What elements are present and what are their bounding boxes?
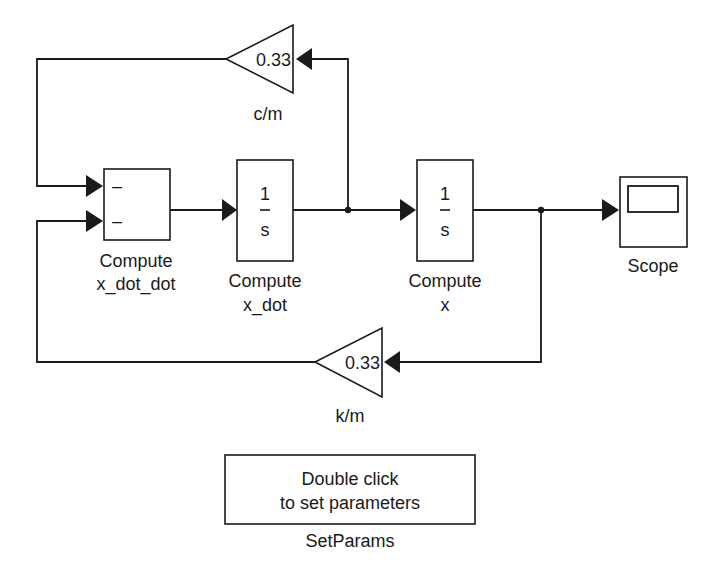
wire-integrator2-to-scope[interactable] bbox=[473, 199, 619, 221]
integrator1-denominator: s bbox=[261, 220, 270, 240]
integrator2-numerator: 1 bbox=[440, 184, 450, 204]
arrowhead-icon bbox=[400, 199, 416, 221]
arrowhead-icon bbox=[222, 199, 237, 221]
setparams-line2: to set parameters bbox=[280, 493, 420, 513]
setparams-line1: Double click bbox=[301, 469, 399, 489]
integrator1-label-line2: x_dot bbox=[243, 295, 287, 316]
arrowhead-icon bbox=[86, 175, 103, 197]
sum-block-compute-x-dot-dot[interactable]: – – bbox=[104, 169, 170, 240]
damping-gain-label: c/m bbox=[254, 104, 283, 124]
integrator-block-compute-x-dot[interactable]: 1 s bbox=[237, 160, 293, 261]
sum-label-line2: x_dot_dot bbox=[96, 274, 175, 295]
scope-block[interactable] bbox=[620, 177, 687, 247]
integrator1-numerator: 1 bbox=[260, 184, 270, 204]
wire-velocity-to-damping-gain[interactable] bbox=[296, 48, 348, 210]
gain-block-spring[interactable]: 0.33 bbox=[315, 328, 382, 397]
integrator2-label-line2: x bbox=[441, 295, 450, 315]
damping-gain-value: 0.33 bbox=[256, 50, 291, 70]
setparams-block[interactable]: Double click to set parameters bbox=[225, 455, 475, 524]
sum-label-line1: Compute bbox=[99, 251, 172, 271]
arrowhead-icon bbox=[602, 199, 619, 221]
setparams-label: SetParams bbox=[305, 531, 394, 551]
sum-input1-sign: – bbox=[112, 176, 122, 196]
integrator1-label-line1: Compute bbox=[228, 271, 301, 291]
arrowhead-icon bbox=[296, 48, 312, 70]
arrowhead-icon bbox=[384, 351, 400, 373]
wire-integrator1-to-integrator2[interactable] bbox=[293, 199, 416, 221]
integrator2-denominator: s bbox=[441, 220, 450, 240]
scope-display-icon bbox=[628, 186, 678, 212]
spring-gain-value: 0.33 bbox=[345, 353, 380, 373]
spring-gain-label: k/m bbox=[336, 406, 365, 426]
wire-sum-to-integrator1[interactable] bbox=[170, 199, 237, 221]
simulink-canvas: – – Compute x_dot_dot 1 s Compute x_dot … bbox=[0, 0, 715, 587]
integrator-block-compute-x[interactable]: 1 s bbox=[417, 160, 473, 261]
scope-label: Scope bbox=[627, 256, 678, 276]
gain-block-damping[interactable]: 0.33 bbox=[226, 25, 293, 93]
arrowhead-icon bbox=[86, 210, 103, 232]
integrator2-label-line1: Compute bbox=[408, 271, 481, 291]
sum-input2-sign: – bbox=[112, 211, 122, 231]
